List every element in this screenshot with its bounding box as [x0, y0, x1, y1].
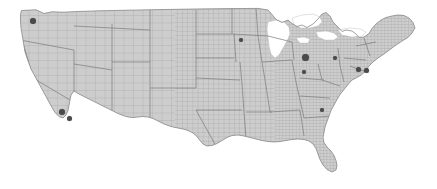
us-map-figure [0, 0, 437, 189]
city-marker-seattle[interactable] [30, 18, 36, 24]
city-marker-los-angeles[interactable] [59, 109, 65, 115]
city-marker-minneapolis[interactable] [239, 38, 243, 42]
city-marker-new-york[interactable] [364, 68, 369, 73]
us-map-basemap [0, 0, 437, 189]
city-marker-san-diego[interactable] [67, 116, 72, 121]
city-marker-atlanta[interactable] [320, 108, 324, 112]
city-marker-indianapolis[interactable] [302, 70, 306, 74]
city-marker-philadelphia[interactable] [356, 67, 361, 72]
city-marker-chicago[interactable] [302, 54, 309, 61]
city-marker-cleveland[interactable] [333, 56, 337, 60]
us-landmass [0, 0, 437, 189]
